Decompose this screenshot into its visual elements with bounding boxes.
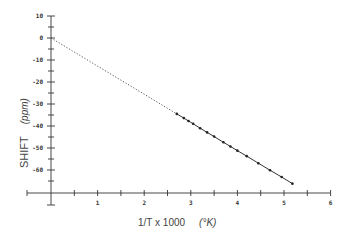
data-point [199,127,202,130]
y-tick-label: -30 [32,100,43,107]
data-point [291,182,294,185]
y-tick-label: -20 [32,78,43,85]
data-point [187,120,190,123]
data-point [222,141,225,144]
extrapolation-line [51,38,177,114]
plot-series [51,38,294,185]
axes [27,16,330,205]
data-point [192,123,195,126]
x-tick-label: 4 [236,199,240,206]
x-tick-label: 6 [329,199,333,206]
x-tick-label: 5 [282,199,286,206]
data-point [245,155,248,158]
data-point [269,169,272,172]
chart: 123456 100-10-20-30-40-50-60 1/T x 1000(… [0,0,348,247]
x-tick-labels: 123456 [96,199,333,206]
data-point [257,162,260,165]
data-point [229,145,232,148]
y-tick-label: -10 [32,56,43,63]
y-tick-label: 0 [39,34,43,41]
y-tick-label: -40 [32,122,43,129]
x-tick-label: 1 [96,199,100,206]
data-point [206,131,209,134]
y-tick-label: -60 [32,166,43,173]
y-axis-title: SHIFT(ppm) [18,98,30,168]
x-axis-title: 1/T x 1000(°K) [138,217,216,228]
y-tick-label: -50 [32,144,43,151]
y-tick-label: 10 [36,12,44,19]
data-point [176,113,179,116]
data-point [236,149,239,152]
data-point [213,135,216,138]
data-point [280,176,283,179]
x-tick-label: 3 [189,199,193,206]
x-tick-label: 2 [142,199,146,206]
data-point [183,117,186,120]
y-tick-labels: 100-10-20-30-40-50-60 [32,12,43,173]
